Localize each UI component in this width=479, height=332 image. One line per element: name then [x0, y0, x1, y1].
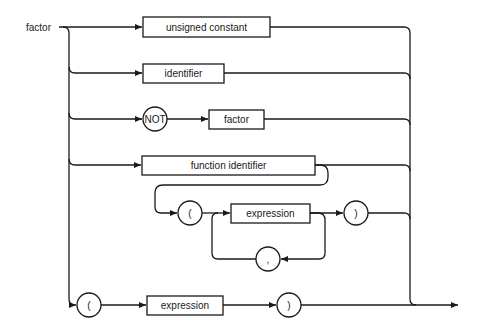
not-label: NOT: [144, 114, 165, 125]
close-paren-2-label: ): [287, 300, 290, 311]
branch-identifier: identifier: [69, 64, 410, 83]
syntax-diagram-factor: factor unsigned constant identifier NOT …: [0, 0, 479, 332]
left-trunk: [59, 27, 76, 305]
right-trunk: [410, 33, 416, 305]
expression-label: expression: [246, 208, 294, 219]
branch-function-call: function identifier ( expression ) ,: [69, 156, 410, 271]
branch-not-factor: NOT factor: [69, 107, 410, 131]
diagram-title: factor: [26, 22, 52, 33]
identifier-label: identifier: [165, 68, 203, 79]
factor-label: factor: [224, 114, 250, 125]
comma-label: ,: [267, 254, 270, 265]
function-identifier-label: function identifier: [191, 160, 267, 171]
branch-unsigned-constant: unsigned constant: [63, 17, 410, 37]
branch-parenthesized: ( expression ): [77, 293, 458, 317]
unsigned-constant-label: unsigned constant: [166, 22, 247, 33]
close-paren-label: ): [354, 208, 357, 219]
expression-2-label: expression: [161, 300, 209, 311]
